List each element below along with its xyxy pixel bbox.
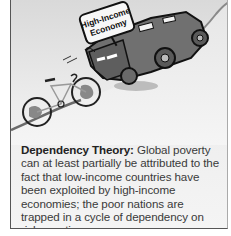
figure-frame: High-Income Economy Dependency Theory: G…: [10, 0, 228, 229]
caption-term: Dependency Theory:: [21, 143, 134, 156]
figure-caption: Dependency Theory: Global poverty can at…: [21, 143, 225, 229]
dependency-illustration: High-Income Economy: [11, 0, 228, 145]
caption-text: Global poverty can at least partially be…: [21, 143, 219, 229]
